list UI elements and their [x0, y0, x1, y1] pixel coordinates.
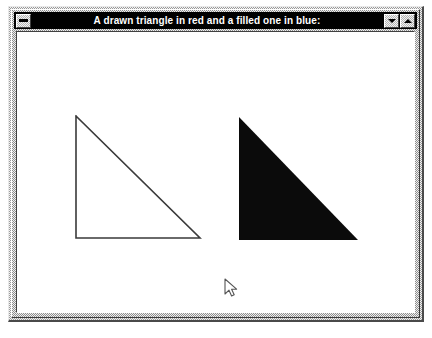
filled-triangle [239, 117, 358, 240]
drawing-client-area[interactable] [16, 31, 415, 313]
window-title: A drawn triangle in red and a filled one… [31, 12, 383, 29]
application-window: A drawn triangle in red and a filled one… [8, 6, 424, 322]
outlined-triangle [76, 116, 200, 238]
triangle-up-icon [404, 19, 412, 23]
title-bar[interactable]: A drawn triangle in red and a filled one… [14, 12, 417, 29]
system-menu-button[interactable] [16, 14, 31, 28]
graphics-canvas [17, 32, 415, 313]
triangle-down-icon [388, 19, 396, 23]
system-menu-bar-icon [19, 19, 28, 22]
minimize-button[interactable] [384, 14, 399, 28]
window-inner-frame: A drawn triangle in red and a filled one… [11, 9, 420, 318]
maximize-button[interactable] [400, 14, 415, 28]
